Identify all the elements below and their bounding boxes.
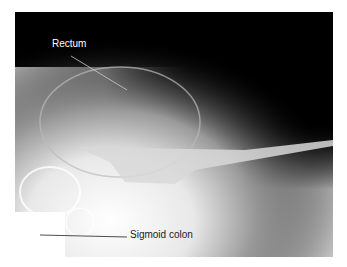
rectum-label: Rectum xyxy=(52,38,86,50)
sigmoid-colon-label: Sigmoid colon xyxy=(130,229,193,241)
